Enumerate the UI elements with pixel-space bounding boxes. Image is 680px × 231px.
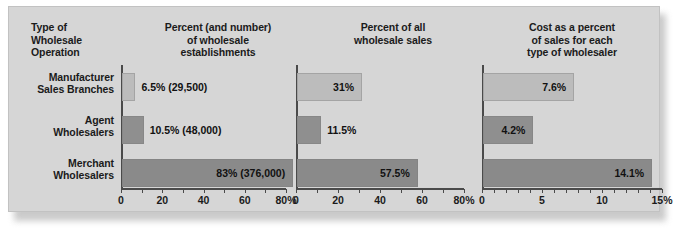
header-line: establishments bbox=[129, 46, 307, 59]
bar-value-label: 7.6% bbox=[483, 73, 566, 101]
x-axis-line bbox=[482, 188, 662, 190]
header-line: of wholesale bbox=[129, 34, 307, 47]
header-line: Percent of all bbox=[309, 21, 477, 34]
bar-value-label: 10.5% (48,000) bbox=[150, 116, 222, 144]
x-axis-tick-label: 0 bbox=[118, 194, 124, 206]
x-axis-tick-label: 80% bbox=[453, 194, 474, 206]
bar-value-label: 83% (376,000) bbox=[122, 159, 285, 187]
header-line: Type of bbox=[31, 21, 141, 34]
x-axis-tick bbox=[401, 189, 402, 193]
header-line: of sales for each bbox=[483, 34, 661, 47]
x-axis-tick-label: 60 bbox=[239, 194, 251, 206]
x-axis-tick bbox=[518, 189, 519, 193]
x-axis-tick bbox=[578, 189, 579, 193]
bar bbox=[122, 116, 144, 144]
bar-value-label: 4.2% bbox=[483, 116, 525, 144]
header-line: Cost as a percent bbox=[483, 21, 661, 34]
x-axis-tick bbox=[296, 189, 297, 193]
x-axis-tick bbox=[506, 189, 507, 193]
bar bbox=[122, 73, 135, 101]
x-axis-tick bbox=[614, 189, 615, 193]
x-axis-tick-label: 15% bbox=[651, 194, 672, 206]
x-axis-tick bbox=[482, 189, 483, 193]
x-axis-tick bbox=[542, 189, 543, 193]
x-axis-tick-label: 40 bbox=[374, 194, 386, 206]
header-line: wholesale sales bbox=[309, 34, 477, 47]
chart-pane-establishments: 020406080%6.5% (29,500)10.5% (48,000)83%… bbox=[121, 65, 291, 205]
x-axis-tick bbox=[121, 189, 122, 193]
wholesale-statistics-figure: Type of Wholesale Operation Percent (and… bbox=[0, 0, 680, 231]
x-axis-tick bbox=[422, 189, 423, 193]
row-label-agent-wholesalers: Agent Wholesalers bbox=[19, 114, 114, 139]
bar-value-label: 14.1% bbox=[483, 159, 644, 187]
x-axis-tick bbox=[286, 189, 287, 193]
x-axis-tick bbox=[443, 189, 444, 193]
header-line: Wholesale bbox=[31, 34, 141, 47]
chart-panel: Type of Wholesale Operation Percent (and… bbox=[8, 6, 660, 212]
bar-value-label: 57.5% bbox=[297, 159, 410, 187]
x-axis-tick bbox=[626, 189, 627, 193]
bar-value-label: 11.5% bbox=[327, 116, 356, 144]
x-axis-tick bbox=[494, 189, 495, 193]
x-axis-tick-label: 40 bbox=[198, 194, 210, 206]
x-axis-tick-label: 20 bbox=[156, 194, 168, 206]
row-label-line: Wholesalers bbox=[19, 169, 114, 181]
x-axis-tick bbox=[359, 189, 360, 193]
x-axis-tick bbox=[162, 189, 163, 193]
row-label-line: Agent bbox=[19, 114, 114, 126]
chart-pane-wholesale-sales: 020406080%31%11.5%57.5% bbox=[296, 65, 469, 205]
x-axis-tick bbox=[338, 189, 339, 193]
x-axis-tick bbox=[566, 189, 567, 193]
column-header-type-of-wholesale-operation: Type of Wholesale Operation bbox=[31, 21, 141, 59]
x-axis-tick bbox=[204, 189, 205, 193]
x-axis-tick bbox=[265, 189, 266, 193]
row-label-line: Wholesalers bbox=[19, 126, 114, 138]
row-label-line: Merchant bbox=[19, 157, 114, 169]
x-axis-tick bbox=[380, 189, 381, 193]
row-label-manufacturer-sales-branches: Manufacturer Sales Branches bbox=[19, 71, 114, 96]
x-axis-tick bbox=[142, 189, 143, 193]
x-axis-tick-label: 10 bbox=[596, 194, 608, 206]
x-axis-tick bbox=[638, 189, 639, 193]
x-axis-tick bbox=[554, 189, 555, 193]
row-label-line: Sales Branches bbox=[19, 83, 114, 95]
x-axis-tick-label: 0 bbox=[293, 194, 299, 206]
x-axis-tick bbox=[245, 189, 246, 193]
bar-value-label: 6.5% (29,500) bbox=[141, 73, 207, 101]
x-axis-tick bbox=[530, 189, 531, 193]
header-line: Operation bbox=[31, 46, 141, 59]
header-line: Percent (and number) bbox=[129, 21, 307, 34]
x-axis-tick-label: 5 bbox=[539, 194, 545, 206]
bar-value-label: 31% bbox=[297, 73, 354, 101]
x-axis-tick bbox=[650, 189, 651, 193]
x-axis-tick-label: 0 bbox=[479, 194, 485, 206]
x-axis-tick bbox=[590, 189, 591, 193]
header-line: type of wholesaler bbox=[483, 46, 661, 59]
x-axis-tick bbox=[317, 189, 318, 193]
x-axis-tick-label: 60 bbox=[416, 194, 428, 206]
row-label-merchant-wholesalers: Merchant Wholesalers bbox=[19, 157, 114, 182]
row-label-line: Manufacturer bbox=[19, 71, 114, 83]
chart-pane-cost-percent: 051015%7.6%4.2%14.1% bbox=[482, 65, 667, 205]
x-axis-tick bbox=[602, 189, 603, 193]
x-axis-tick bbox=[662, 189, 663, 193]
x-axis-tick-label: 20 bbox=[332, 194, 344, 206]
x-axis-tick bbox=[224, 189, 225, 193]
x-axis-tick bbox=[183, 189, 184, 193]
column-header-cost-percent-of-sales: Cost as a percent of sales for each type… bbox=[483, 21, 661, 59]
x-axis-tick bbox=[464, 189, 465, 193]
column-header-percent-sales: Percent of all wholesale sales bbox=[309, 21, 477, 46]
bar bbox=[297, 116, 321, 144]
column-header-percent-establishments: Percent (and number) of wholesale establ… bbox=[129, 21, 307, 59]
